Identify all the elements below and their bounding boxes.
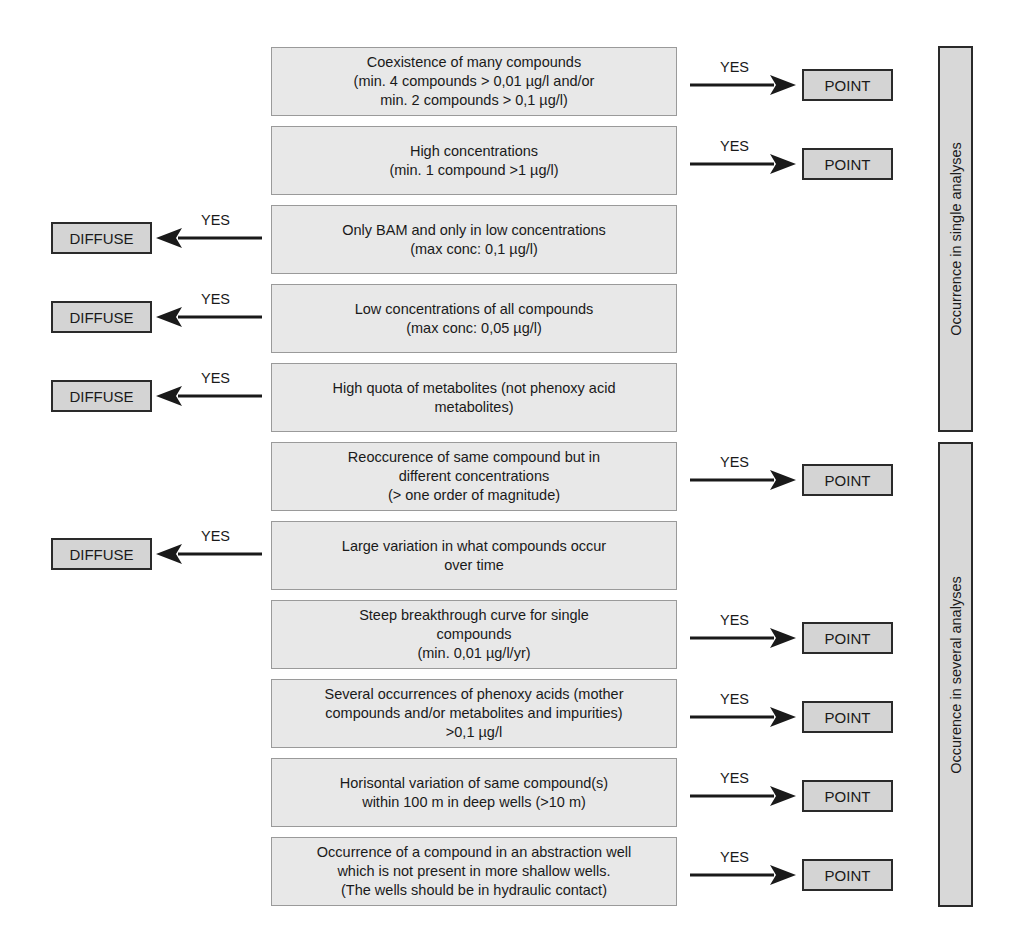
point-outcome-box: POINT [802, 622, 893, 654]
diffuse-outcome-box: DIFFUSE [51, 222, 152, 254]
yes-label: YES [201, 212, 230, 228]
point-outcome-box: POINT [802, 464, 893, 496]
diffuse-outcome-box: DIFFUSE [51, 538, 152, 570]
criterion-box: High concentrations (min. 1 compound >1 … [271, 126, 677, 195]
yes-label: YES [720, 691, 749, 707]
yes-label: YES [720, 849, 749, 865]
yes-label: YES [201, 291, 230, 307]
yes-label: YES [720, 612, 749, 628]
yes-label: YES [201, 528, 230, 544]
yes-label: YES [720, 454, 749, 470]
section-single-analyses: Occurrence in single analyses [938, 46, 973, 432]
criterion-box: Large variation in what compounds occur … [271, 521, 677, 590]
criterion-box: Reoccurence of same compound but in diff… [271, 442, 677, 511]
section-several-analyses: Occurence in several analyses [938, 442, 973, 907]
yes-label: YES [720, 138, 749, 154]
diffuse-outcome-box: DIFFUSE [51, 301, 152, 333]
point-outcome-box: POINT [802, 148, 893, 180]
criterion-box: Only BAM and only in low concentrations … [271, 205, 677, 274]
criterion-box: Coexistence of many compounds (min. 4 co… [271, 47, 677, 116]
criterion-box: Horisontal variation of same compound(s)… [271, 758, 677, 827]
criterion-box: High quota of metabolites (not phenoxy a… [271, 363, 677, 432]
criterion-box: Several occurrences of phenoxy acids (mo… [271, 679, 677, 748]
criterion-box: Low concentrations of all compounds (max… [271, 284, 677, 353]
section-label-text: Occurrence in single analyses [948, 142, 964, 335]
criterion-box: Occurrence of a compound in an abstracti… [271, 837, 677, 906]
point-outcome-box: POINT [802, 780, 893, 812]
point-outcome-box: POINT [802, 69, 893, 101]
yes-label: YES [201, 370, 230, 386]
section-label-text: Occurence in several analyses [948, 576, 964, 773]
point-outcome-box: POINT [802, 859, 893, 891]
yes-label: YES [720, 59, 749, 75]
yes-label: YES [720, 770, 749, 786]
diffuse-outcome-box: DIFFUSE [51, 380, 152, 412]
criterion-box: Steep breakthrough curve for single comp… [271, 600, 677, 669]
point-outcome-box: POINT [802, 701, 893, 733]
